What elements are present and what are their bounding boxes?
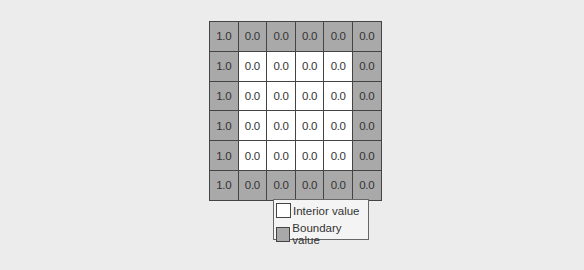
grid-cell-boundary: 1.0 bbox=[210, 82, 238, 111]
grid-cell-boundary: 0.0 bbox=[324, 22, 352, 51]
grid-cell-interior: 0.0 bbox=[296, 111, 324, 140]
grid-cell-boundary: 0.0 bbox=[353, 141, 381, 170]
grid-cell-interior: 0.0 bbox=[324, 52, 352, 81]
grid-cell-boundary: 0.0 bbox=[353, 82, 381, 111]
grid-cell-interior: 0.0 bbox=[324, 82, 352, 111]
grid-cell-interior: 0.0 bbox=[267, 82, 295, 111]
grid-cell-boundary: 0.0 bbox=[353, 111, 381, 140]
grid-cell-boundary: 0.0 bbox=[296, 171, 324, 200]
grid-cell-boundary: 0.0 bbox=[296, 22, 324, 51]
grid-cell-interior: 0.0 bbox=[239, 52, 267, 81]
legend: Interior value Boundary value bbox=[273, 199, 369, 240]
grid-cell-boundary: 1.0 bbox=[210, 111, 238, 140]
grid-cell-interior: 0.0 bbox=[239, 141, 267, 170]
grid-cell-boundary: 0.0 bbox=[353, 52, 381, 81]
grid-cell-boundary: 0.0 bbox=[267, 171, 295, 200]
grid-cell-interior: 0.0 bbox=[239, 111, 267, 140]
legend-boundary-label: Boundary value bbox=[292, 222, 368, 246]
grid-cell-interior: 0.0 bbox=[296, 82, 324, 111]
grid-cell-interior: 0.0 bbox=[267, 52, 295, 81]
grid-cell-boundary: 1.0 bbox=[210, 171, 238, 200]
legend-interior: Interior value bbox=[276, 203, 359, 218]
grid-cell-boundary: 0.0 bbox=[353, 171, 381, 200]
grid-cell-boundary: 0.0 bbox=[324, 171, 352, 200]
grid-cell-interior: 0.0 bbox=[239, 82, 267, 111]
boundary-swatch-icon bbox=[276, 227, 290, 242]
grid-cell-interior: 0.0 bbox=[267, 141, 295, 170]
legend-interior-label: Interior value bbox=[293, 205, 359, 217]
grid-cell-boundary: 1.0 bbox=[210, 22, 238, 51]
grid-cell-interior: 0.0 bbox=[324, 141, 352, 170]
grid-cell-boundary: 0.0 bbox=[239, 171, 267, 200]
grid-cell-boundary: 0.0 bbox=[239, 22, 267, 51]
grid-cell-boundary: 1.0 bbox=[210, 141, 238, 170]
value-grid: 1.00.00.00.00.00.01.00.00.00.00.00.01.00… bbox=[209, 21, 382, 201]
grid-cell-boundary: 0.0 bbox=[353, 22, 381, 51]
grid-cell-interior: 0.0 bbox=[296, 52, 324, 81]
grid-cell-interior: 0.0 bbox=[296, 141, 324, 170]
grid-cell-interior: 0.0 bbox=[324, 111, 352, 140]
grid-cell-boundary: 1.0 bbox=[210, 52, 238, 81]
legend-boundary: Boundary value bbox=[276, 222, 368, 246]
grid-cell-interior: 0.0 bbox=[267, 111, 295, 140]
grid-cell-boundary: 0.0 bbox=[267, 22, 295, 51]
interior-swatch-icon bbox=[276, 203, 291, 218]
